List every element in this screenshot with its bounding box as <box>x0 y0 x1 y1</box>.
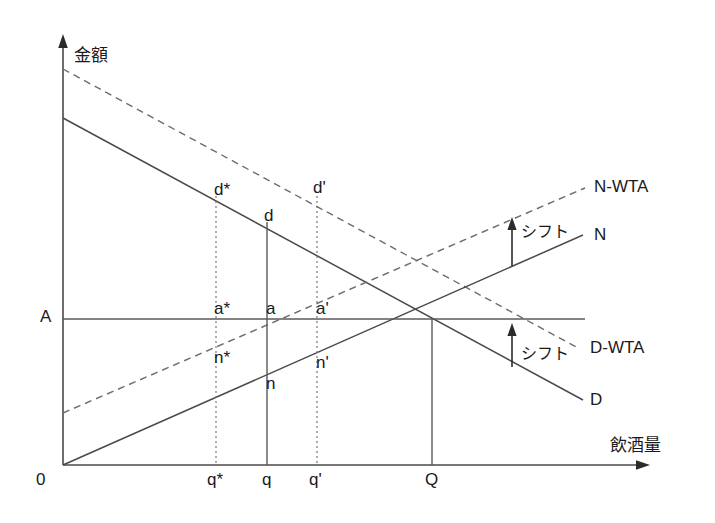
x-tick-q-prime: q' <box>309 471 322 488</box>
x-tick-q-cap: Q <box>425 471 438 488</box>
x-tick-q: q <box>262 471 271 488</box>
curve-label-n: N <box>594 226 606 243</box>
y-level-label-a: A <box>40 308 51 325</box>
point-label-n-prime: n' <box>316 354 329 371</box>
x-tick-q-star: q* <box>207 471 223 488</box>
curve-n <box>63 235 583 465</box>
shift-arrow-upper <box>507 217 516 266</box>
curve-label-d: D <box>590 391 602 408</box>
point-label-a: a <box>266 300 275 317</box>
x-axis-label: 飲酒量 <box>610 437 661 454</box>
point-label-d: d <box>264 207 273 224</box>
curve-label-n-wta: N-WTA <box>594 178 648 195</box>
shift-label-lower: シフト <box>521 346 569 362</box>
diagram-canvas <box>0 0 715 523</box>
x-axis <box>63 460 650 470</box>
y-axis <box>58 34 68 465</box>
point-label-d-prime: d' <box>313 179 326 196</box>
curve-label-d-wta: D-WTA <box>590 339 644 356</box>
point-label-n: n <box>266 375 275 392</box>
point-label-d-star: d* <box>214 181 230 198</box>
shift-label-upper: シフト <box>521 224 569 240</box>
point-label-a-prime: a' <box>316 300 329 317</box>
economics-diagram-figure: 金額 飲酒量 0 A q* q q' Q N-WTA N D-WTA D シフト… <box>0 0 715 523</box>
point-label-a-star: a* <box>214 300 230 317</box>
origin-label: 0 <box>36 471 45 488</box>
y-axis-label: 金額 <box>74 47 108 64</box>
point-label-n-star: n* <box>214 349 230 366</box>
